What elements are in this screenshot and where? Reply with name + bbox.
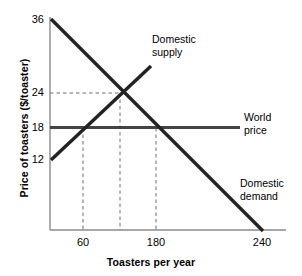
x-tick-label-60: 60 bbox=[63, 236, 103, 248]
domestic-supply-curve bbox=[51, 66, 151, 160]
chart-plot-area bbox=[0, 0, 302, 276]
series-label-domestic-supply-line2: supply bbox=[152, 46, 196, 59]
series-label-domestic-supply-line1: Domestic bbox=[152, 33, 196, 46]
x-tick-label-180: 180 bbox=[136, 236, 176, 248]
x-tick-label-240: 240 bbox=[242, 236, 282, 248]
series-label-domestic-demand-line1: Domestic bbox=[240, 177, 284, 190]
y-axis-title: Price of toasters ($/toaster) bbox=[18, 18, 30, 238]
series-label-world-price-line2: price bbox=[244, 124, 271, 137]
chart-figure: 36 24 18 12 60 180 240 Toasters per year… bbox=[0, 0, 302, 276]
series-label-world-price: World price bbox=[244, 111, 271, 136]
series-label-domestic-supply: Domestic supply bbox=[152, 33, 196, 58]
series-label-domestic-demand-line2: demand bbox=[240, 190, 284, 203]
series-label-domestic-demand: Domestic demand bbox=[240, 177, 284, 202]
series-label-world-price-line1: World bbox=[244, 111, 271, 124]
x-axis-title: Toasters per year bbox=[0, 256, 302, 268]
